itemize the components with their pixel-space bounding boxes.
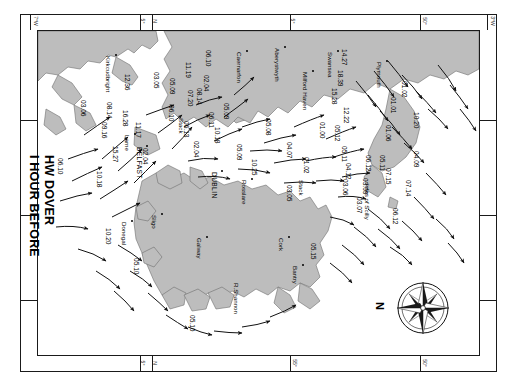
chart-title-line-2: HW DOVER	[42, 155, 56, 225]
tidal-rate-label: 10.18	[96, 171, 103, 188]
tidal-rate-label: 04.09	[413, 151, 420, 168]
tidal-rate-label: 15.28	[331, 88, 338, 105]
graticule-label: 5°	[140, 19, 146, 24]
tidal-rate-label: 02.04	[193, 141, 200, 158]
tidal-stream-atlas-page: KirkcudbrightCaernarfonAberystwythMilfor…	[0, 0, 517, 386]
tidal-rate-label: 10.25	[251, 159, 258, 176]
tidal-rate-label: 01.06	[385, 125, 392, 142]
place-label: Larne	[124, 135, 131, 151]
place-label: Plymouth	[376, 62, 383, 88]
tidal-rate-label: 08.14	[196, 88, 203, 105]
place-label: DUBLIN	[211, 172, 218, 199]
place-label: Caernarfon	[236, 52, 243, 83]
graticule-label: 7°W	[33, 16, 39, 26]
graticule-label: 50°	[422, 17, 428, 25]
tidal-rate-label: 06.12	[392, 208, 399, 225]
tidal-rate-label: 04.12	[345, 163, 352, 180]
place-label: Sligo	[151, 215, 158, 229]
tidal-rate-label: 01.02	[401, 81, 408, 98]
graticule-tick	[487, 14, 488, 30]
tidal-rate-label: 03.09	[362, 178, 369, 195]
graticule-label: 55°	[292, 359, 298, 367]
tidal-rate-label: 05.10	[133, 258, 140, 275]
tidal-rate-label: 06.12	[365, 155, 372, 172]
chart-title-block: I HOUR BEFORE HW DOVER	[28, 155, 58, 325]
tidal-rate-label: 05.10	[189, 315, 196, 332]
tidal-rate-label: 02.04	[203, 75, 210, 92]
tidal-rate-label: 11.19	[185, 62, 192, 78]
tidal-rate-label: 06.10	[168, 105, 175, 122]
tidal-rate-label: 14.27	[341, 49, 348, 66]
compass-rose	[392, 277, 454, 339]
tidal-rate-label: 03.06	[342, 179, 349, 196]
tidal-rate-label: 01.01	[390, 97, 397, 114]
graticule-label: 5°	[290, 19, 296, 24]
graticule-tick	[480, 215, 497, 216]
tidal-rate-label: 18.39	[337, 70, 344, 87]
tidal-rate-label: 07.15	[385, 168, 392, 185]
tidal-rate-label: 05.08	[265, 119, 272, 136]
place-label: Swansea	[327, 52, 334, 77]
tidal-rate-label: 09.16	[101, 122, 108, 139]
tidal-rate-label: 08.14	[106, 102, 113, 119]
tidal-rate-label: 05.09	[169, 78, 176, 95]
place-label: Stack	[298, 180, 305, 195]
tidal-rate-label: 04.07	[286, 142, 293, 159]
graticule-tick	[30, 14, 31, 30]
tidal-rate-label: 06.13	[183, 121, 190, 138]
tidal-rate-label: 05.11	[341, 146, 348, 162]
tidal-rate-label: 07.14	[405, 180, 412, 197]
place-label: R.Shannon	[233, 283, 240, 314]
tidal-rate-label: 12.36	[124, 74, 131, 91]
tidal-rate-label: 03.05	[286, 185, 293, 202]
tidal-rate-label: 05.15	[310, 243, 317, 260]
tidal-rate-label: 03.07	[356, 197, 363, 214]
tidal-rate-label: 15.27	[112, 146, 119, 163]
tidal-rate-label: 07.20	[187, 90, 194, 107]
graticule-tick	[20, 120, 37, 121]
tidal-rate-label: 12.22	[343, 107, 350, 124]
tidal-rate-label: 05.09	[223, 103, 230, 120]
place-label: Cork	[278, 238, 285, 251]
place-label: Bantry	[292, 266, 299, 284]
graticule-label: N	[152, 361, 158, 365]
tidal-rate-label: 16.28	[122, 110, 129, 127]
place-label: Kirkcudbright	[105, 56, 112, 92]
graticule-tick	[480, 300, 497, 301]
tidal-rate-label: 11.17	[135, 122, 142, 138]
tidal-rate-label: 10.20	[413, 112, 420, 129]
place-label: Aberystwyth	[274, 48, 281, 82]
tidal-rate-label: 02.04	[142, 148, 149, 165]
graticule-label: N	[152, 19, 158, 23]
tidal-rate-label: 06.11	[208, 112, 215, 128]
tidal-rate-label: 03.06	[80, 100, 87, 117]
chart-title-line-1: I HOUR BEFORE	[27, 155, 41, 257]
place-label: Milford Haven	[302, 72, 309, 110]
graticule-tick	[480, 120, 497, 121]
tidal-rate-label: 06.10	[205, 50, 212, 67]
north-label: N	[374, 302, 386, 310]
tidal-rate-label: 05.09	[236, 144, 243, 161]
tidal-rate-label: 01.00	[319, 122, 326, 139]
tidal-rate-label: 10.20	[105, 228, 112, 245]
place-label: Rosslare	[241, 180, 248, 204]
graticule-label: 3°W	[490, 16, 496, 26]
tidal-rate-label: 06.10	[57, 158, 64, 175]
place-label: Galway	[196, 238, 203, 259]
tidal-rate-label: 01.02	[303, 157, 310, 174]
tidal-rate-label: 05.12	[334, 125, 341, 142]
graticule-label: 50°	[422, 359, 428, 367]
tidal-rate-label: 10.18	[214, 127, 221, 144]
tidal-rate-label: 03.05	[153, 72, 160, 89]
graticule-label: 5°	[140, 361, 146, 366]
place-label: Donegal	[121, 222, 128, 245]
